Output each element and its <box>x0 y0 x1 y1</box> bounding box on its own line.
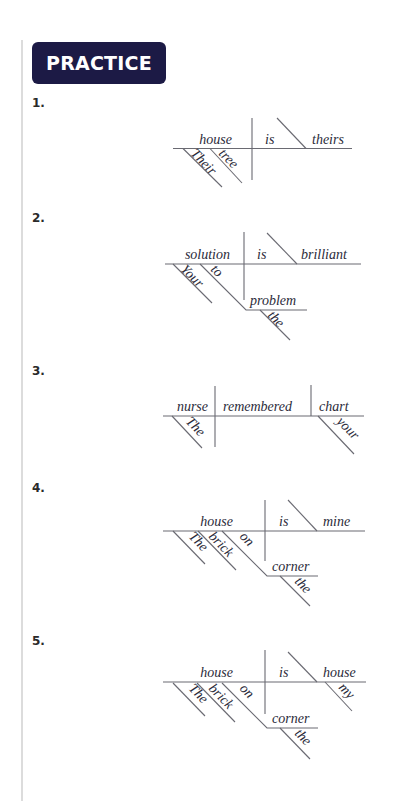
diagram-1: house is theirs Their tree <box>173 118 352 187</box>
d3-object: chart <box>319 399 350 414</box>
d2-mod-the: the <box>265 308 288 331</box>
d5-object-of-prep: corner <box>272 711 310 726</box>
d2-verb: is <box>257 247 267 262</box>
diagram-2: solution is brilliant Your to problem th… <box>165 232 361 340</box>
d4-object-of-prep: corner <box>272 559 310 574</box>
sentence-diagrams: house is theirs Their tree solution is b… <box>0 0 394 801</box>
d4-mod-the: The <box>186 529 211 555</box>
diagram-5: house is house The brick on corner the m… <box>163 650 366 759</box>
d5-verb: is <box>279 665 289 680</box>
d5-mod-the: The <box>186 681 211 707</box>
d2-mod-your: Your <box>178 262 207 291</box>
d3-mod-the: The <box>183 414 208 440</box>
d1-complement: theirs <box>312 132 344 147</box>
d2-object-of-prep: problem <box>249 293 296 308</box>
d4-subject: house <box>200 514 233 529</box>
d4-mod-the-2: the <box>292 574 315 597</box>
d1-mod-their: Their <box>188 146 220 179</box>
d5-subject: house <box>200 665 233 680</box>
d5-complement: house <box>323 665 356 680</box>
d1-verb: is <box>265 132 275 147</box>
d4-complement: mine <box>323 514 350 529</box>
d3-mod-your: your <box>332 412 362 443</box>
diagram-4: house is mine The brick on corner the <box>163 500 365 606</box>
d2-complement: brilliant <box>301 247 348 262</box>
d3-subject: nurse <box>177 399 208 414</box>
d5-mod-the-2: the <box>292 726 315 749</box>
d5-mod-on: on <box>237 681 258 701</box>
d4-verb: is <box>279 514 289 529</box>
d5-mod-my: my <box>336 680 359 703</box>
diagram-3: nurse remembered chart The your <box>163 385 364 454</box>
d4-mod-on: on <box>237 529 258 549</box>
d3-verb: remembered <box>223 399 293 414</box>
d2-subject: solution <box>185 247 230 262</box>
